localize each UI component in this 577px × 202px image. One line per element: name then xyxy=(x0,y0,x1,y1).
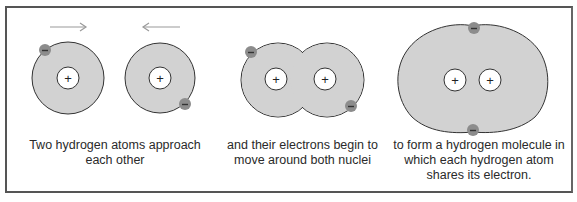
svg-text:+: + xyxy=(272,72,280,87)
caption-line: Two hydrogen atoms approach xyxy=(20,138,210,153)
electron-icon xyxy=(345,100,357,112)
caption-line: move around both nuclei xyxy=(220,153,385,168)
svg-text:+: + xyxy=(451,73,459,88)
caption-approach: Two hydrogen atoms approach each other xyxy=(20,138,210,168)
svg-text:+: + xyxy=(321,72,329,87)
panel-approach: + + xyxy=(32,23,195,114)
electron-icon xyxy=(39,44,51,56)
nucleus-icon: + xyxy=(479,69,501,91)
nucleus-icon: + xyxy=(314,68,336,90)
svg-text:+: + xyxy=(486,73,494,88)
plus-sign: + xyxy=(64,71,72,86)
panel-overlap: + + xyxy=(241,43,364,117)
electron-icon xyxy=(179,98,191,110)
plus-sign: + xyxy=(156,71,164,86)
molecular-electron-cloud xyxy=(398,25,548,133)
caption-overlap: and their electrons begin to move around… xyxy=(220,138,385,168)
arrow-right-icon xyxy=(50,23,86,31)
caption-line: to form a hydrogen molecule in xyxy=(393,138,565,153)
caption-line: shares its electron. xyxy=(393,168,565,183)
electron-icon xyxy=(245,46,257,58)
nucleus-icon: + xyxy=(265,68,287,90)
electron-icon xyxy=(468,22,480,34)
caption-line: and their electrons begin to xyxy=(220,138,385,153)
caption-line: which each hydrogen atom xyxy=(393,153,565,168)
panel-molecule: + + xyxy=(398,22,548,136)
arrow-left-icon xyxy=(143,23,180,31)
electron-icon xyxy=(467,124,479,136)
hydrogen-atom-right: + xyxy=(125,43,195,113)
caption-molecule: to form a hydrogen molecule in which eac… xyxy=(393,138,565,183)
nucleus-icon: + xyxy=(444,69,466,91)
caption-line: each other xyxy=(20,153,210,168)
hydrogen-atom-left: + xyxy=(32,42,104,114)
